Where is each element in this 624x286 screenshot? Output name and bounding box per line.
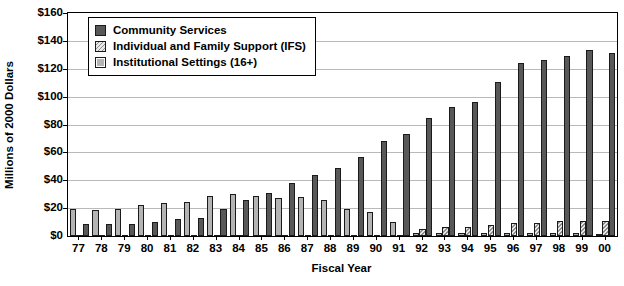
bar — [403, 134, 409, 236]
bar — [275, 198, 281, 236]
x-axis-tick-mark — [193, 236, 194, 240]
y-axis-tick-label: $140 — [37, 34, 63, 46]
bar — [367, 212, 373, 236]
bar — [115, 209, 121, 236]
x-axis-tick-mark — [307, 236, 308, 240]
bar-group — [344, 13, 364, 236]
x-axis-tick-mark — [330, 236, 331, 240]
x-axis-tick-mark — [216, 236, 217, 240]
legend-swatch-ifs — [95, 41, 106, 52]
bar-group — [527, 13, 547, 236]
bar — [518, 63, 524, 236]
bar — [541, 60, 547, 236]
bar — [426, 118, 432, 236]
bar — [161, 203, 167, 236]
x-axis-tick-label: 97 — [530, 242, 543, 254]
bar — [152, 222, 158, 236]
bar-group — [390, 13, 410, 236]
bar — [609, 53, 615, 236]
x-axis-tick-label: 95 — [484, 242, 497, 254]
bar — [312, 175, 318, 236]
bar — [557, 221, 563, 236]
bar — [175, 219, 181, 236]
bar — [70, 209, 76, 236]
bar-group — [436, 13, 456, 236]
x-axis-tick-label: 86 — [278, 242, 291, 254]
bar-group — [321, 13, 341, 236]
x-axis-tick-label: 89 — [347, 242, 360, 254]
bar — [230, 194, 236, 237]
y-axis-tick-label: $120 — [37, 62, 63, 74]
x-axis-title: Fiscal Year — [67, 262, 616, 274]
x-axis-tick-mark — [147, 236, 148, 240]
x-axis-tick-mark — [170, 236, 171, 240]
chart-legend: Community ServicesIndividual and Family … — [88, 17, 316, 76]
x-axis-tick-label: 91 — [392, 242, 405, 254]
y-axis-tick-label: $100 — [37, 90, 63, 102]
bar-group — [504, 13, 524, 236]
legend-label: Individual and Family Support (IFS) — [113, 40, 306, 52]
bar-chart: Millions of 2000 Dollars $0$20$40$60$80$… — [0, 0, 624, 286]
x-axis-tick-mark — [261, 236, 262, 240]
x-axis-tick-mark — [399, 236, 400, 240]
bar-group — [596, 13, 616, 236]
bar — [586, 50, 592, 236]
bar — [344, 209, 350, 236]
y-axis-tick-labels: $0$20$40$60$80$100$120$140$160 — [18, 0, 66, 242]
bar — [138, 205, 144, 236]
legend-item: Community Services — [95, 22, 306, 38]
y-axis-tick-label: $40 — [44, 173, 63, 185]
y-axis-tick-label: $0 — [50, 229, 63, 241]
bar — [564, 56, 570, 236]
x-axis-tick-label: 99 — [575, 242, 588, 254]
x-axis-tick-mark — [467, 236, 468, 240]
x-axis-tick-mark — [239, 236, 240, 240]
bar-group — [458, 13, 478, 236]
x-axis-tick-label: 98 — [552, 242, 565, 254]
bar — [207, 196, 213, 236]
x-axis-tick-label: 81 — [164, 242, 177, 254]
bar — [442, 227, 448, 236]
legend-swatch-community — [95, 25, 106, 36]
x-axis-tick-mark — [582, 236, 583, 240]
bar — [602, 221, 608, 236]
x-axis-tick-label: 83 — [209, 242, 222, 254]
x-axis-tick-label: 88 — [324, 242, 337, 254]
bar — [298, 197, 304, 236]
y-axis-title-text: Millions of 2000 Dollars — [3, 61, 15, 189]
x-axis-tick-label: 00 — [598, 242, 611, 254]
bar-group — [413, 13, 433, 236]
x-axis-tick-mark — [605, 236, 606, 240]
legend-label: Institutional Settings (16+) — [113, 56, 257, 68]
x-axis-tick-mark — [444, 236, 445, 240]
y-axis-tick-label: $160 — [37, 6, 63, 18]
bar-group — [70, 13, 90, 236]
y-axis-tick-label: $60 — [44, 145, 63, 157]
y-axis-tick-label: $80 — [44, 118, 63, 130]
x-axis-tick-label: 80 — [141, 242, 154, 254]
bar — [534, 223, 540, 236]
x-axis-tick-mark — [124, 236, 125, 240]
x-axis-tick-mark — [353, 236, 354, 240]
x-axis-tick-label: 94 — [461, 242, 474, 254]
bar — [472, 102, 478, 236]
bar-group — [367, 13, 387, 236]
legend-label: Community Services — [113, 24, 227, 36]
bar — [289, 183, 295, 236]
bar — [129, 224, 135, 236]
bar-group — [550, 13, 570, 236]
bar — [266, 193, 272, 236]
x-axis-tick-label: 82 — [186, 242, 199, 254]
bar — [580, 221, 586, 236]
bar — [381, 141, 387, 236]
bar — [449, 107, 455, 236]
x-axis-tick-label: 78 — [95, 242, 108, 254]
y-axis-title: Millions of 2000 Dollars — [0, 0, 18, 250]
bar — [465, 227, 471, 236]
x-axis-tick-label: 96 — [507, 242, 520, 254]
x-axis-tick-labels: 7778798081828384858687888990919293949596… — [67, 242, 616, 260]
x-axis-tick-label: 87 — [301, 242, 314, 254]
x-axis-tick-label: 85 — [255, 242, 268, 254]
bar — [390, 222, 396, 236]
bar — [511, 223, 517, 236]
